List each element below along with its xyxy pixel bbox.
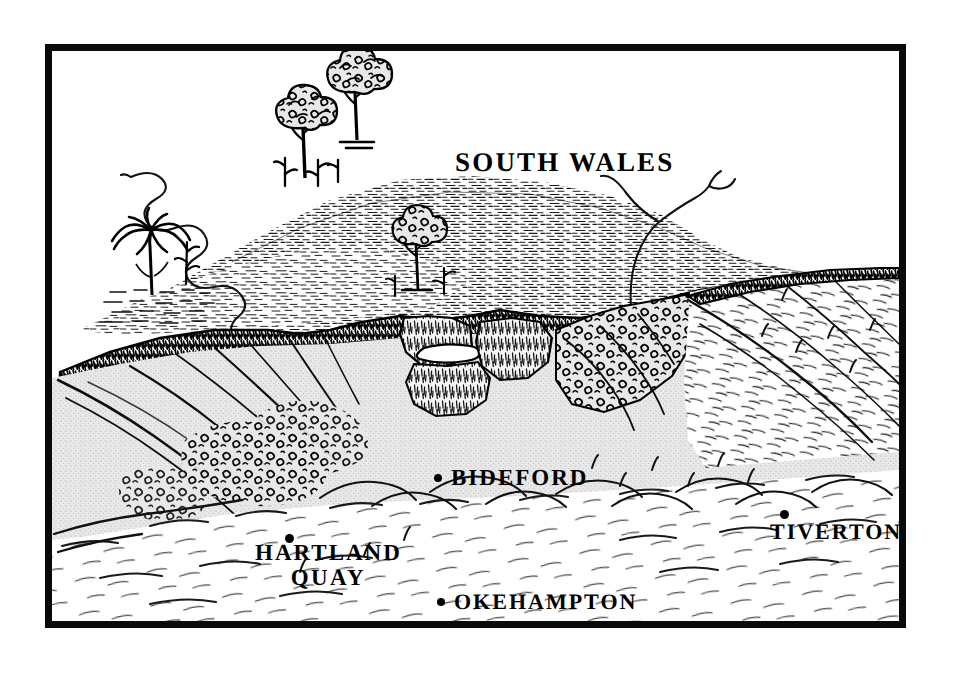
marker-dot-okehampton	[437, 598, 445, 606]
label-okehampton: OKEHAMPTON	[437, 590, 637, 614]
marker-dot-tiverton	[780, 510, 789, 519]
block-diagram-artwork	[0, 0, 955, 674]
right-dip-slope	[684, 268, 899, 468]
label-hartland-quay-line1: HARTLAND	[255, 540, 402, 565]
illustration-canvas	[0, 0, 955, 674]
tree-icon-right	[327, 46, 392, 148]
label-bideford-text: BIDEFORD	[451, 465, 588, 490]
label-tiverton-text: TIVERTON	[770, 519, 902, 544]
label-bideford: BIDEFORD	[434, 466, 588, 491]
label-tiverton: TIVERTON	[770, 520, 902, 544]
figure-root: SOUTH WALES BIDEFORD TIVERTON OKEHAMPTON…	[0, 0, 955, 674]
label-south-wales: SOUTH WALES	[455, 148, 675, 177]
label-hartland-quay-line2: QUAY	[255, 566, 402, 591]
label-hartland-quay: HARTLAND QUAY	[255, 541, 402, 591]
label-south-wales-text: SOUTH WALES	[455, 147, 675, 177]
label-okehampton-text: OKEHAMPTON	[454, 589, 637, 614]
marker-dot-bideford	[434, 474, 442, 482]
